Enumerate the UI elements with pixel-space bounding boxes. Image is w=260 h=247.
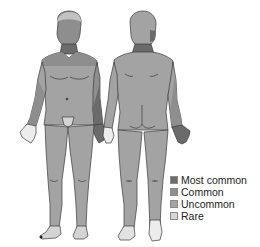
legend: Most common Common Uncommon Rare [170, 174, 247, 222]
front-hand-left [20, 124, 36, 143]
swatch-uncommon [170, 200, 178, 208]
back-leg-right [144, 130, 168, 228]
back-hand-right [172, 125, 190, 144]
legend-item-most-common: Most common [170, 174, 247, 186]
back-foot-left [118, 226, 135, 240]
back-torso [114, 52, 173, 130]
front-groin [62, 117, 74, 127]
front-leg-right [68, 125, 94, 228]
swatch-common [170, 188, 178, 196]
legend-label: Uncommon [181, 198, 235, 210]
legend-item-common: Common [170, 186, 247, 198]
back-hand-left [103, 127, 114, 143]
legend-label: Rare [181, 210, 204, 222]
back-head [130, 11, 156, 47]
front-figure [20, 11, 106, 239]
swatch-most-common [170, 176, 178, 184]
back-leg-left [118, 130, 142, 228]
front-foot-left [40, 226, 61, 239]
legend-item-uncommon: Uncommon [170, 198, 247, 210]
back-foot-right [149, 220, 162, 241]
back-arm-left [104, 62, 118, 129]
front-leg-left [45, 125, 68, 228]
legend-item-rare: Rare [170, 210, 247, 222]
swatch-rare [170, 212, 178, 220]
front-foot-right [73, 226, 88, 239]
legend-label: Common [181, 186, 224, 198]
legend-label: Most common [181, 174, 247, 186]
